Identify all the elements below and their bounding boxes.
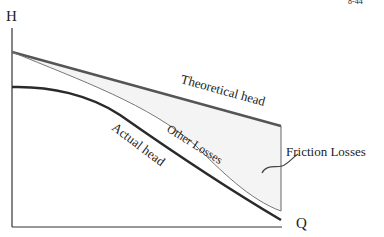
corner-fragment: 8-44 xyxy=(348,0,363,6)
pump-head-diagram: H Q Theoretical head Other Losses Actual… xyxy=(0,0,384,237)
x-axis-label: Q xyxy=(296,215,307,231)
friction-losses-label: Friction Losses xyxy=(286,144,366,159)
y-axis-label: H xyxy=(6,8,17,24)
